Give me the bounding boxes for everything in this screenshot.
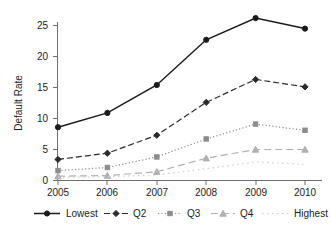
legend-label: Q4: [240, 208, 254, 219]
default-rate-line-chart: 25 20 15 10 5 0 Default Rate 2005 2006 2…: [0, 0, 331, 232]
x-tick-label-2010: 2010: [294, 187, 317, 198]
series-line: [58, 18, 305, 127]
data-point-marker: [154, 132, 160, 138]
series-line: [58, 124, 305, 171]
y-axis-title: Default Rate: [13, 75, 24, 131]
data-point-marker: [154, 82, 159, 87]
chart-legend: LowestQ2Q3Q4Highest: [34, 208, 328, 219]
legend-label: Q3: [187, 208, 201, 219]
data-point-marker: [204, 37, 209, 42]
legend-marker-swatch: [44, 211, 49, 216]
x-axis-ticks: [58, 181, 305, 186]
legend-item-q2[interactable]: Q2: [104, 208, 147, 219]
data-point-marker: [203, 155, 209, 161]
y-tick-label-20: 20: [37, 51, 49, 62]
data-point-marker: [55, 125, 60, 130]
series-layer: [55, 15, 308, 178]
data-point-marker: [155, 155, 159, 159]
x-tick-label-2006: 2006: [96, 187, 119, 198]
x-tick-label-2009: 2009: [245, 187, 268, 198]
legend-marker-swatch: [168, 211, 172, 215]
data-point-marker: [253, 76, 259, 82]
data-point-marker: [55, 156, 61, 162]
x-tick-label-2005: 2005: [47, 187, 70, 198]
data-point-marker: [302, 84, 308, 90]
legend-item-lowest[interactable]: Lowest: [34, 208, 98, 219]
x-tick-label-2007: 2007: [146, 187, 169, 198]
data-point-marker: [253, 15, 258, 20]
data-point-marker: [104, 150, 110, 156]
chart-canvas: 25 20 15 10 5 0 Default Rate 2005 2006 2…: [0, 0, 331, 232]
legend-item-highest[interactable]: Highest: [262, 208, 328, 219]
y-tick-label-5: 5: [42, 144, 48, 155]
legend-item-q3[interactable]: Q3: [158, 208, 201, 219]
legend-marker-swatch: [113, 210, 119, 216]
data-point-marker: [302, 26, 307, 31]
y-tick-label-0: 0: [42, 175, 48, 186]
legend-label: Q2: [133, 208, 147, 219]
data-point-marker: [204, 137, 208, 141]
data-point-marker: [303, 128, 307, 132]
legend-label: Highest: [294, 208, 328, 219]
y-tick-label-25: 25: [37, 20, 49, 31]
data-point-marker: [105, 165, 109, 169]
data-point-marker: [253, 122, 257, 126]
legend-item-q4[interactable]: Q4: [211, 208, 254, 219]
x-tick-label-2008: 2008: [195, 187, 218, 198]
data-point-marker: [105, 110, 110, 115]
series-lowest: [55, 15, 307, 129]
series-q4: [55, 146, 308, 179]
y-tick-label-15: 15: [37, 82, 49, 93]
y-tick-label-10: 10: [37, 113, 49, 124]
legend-label: Lowest: [66, 208, 98, 219]
